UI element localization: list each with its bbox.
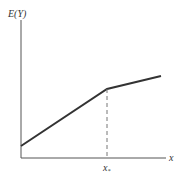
piecewise-linear-diagram: E(Y) x x*	[0, 0, 179, 179]
x-star-label: x*	[102, 162, 110, 174]
x-axis-label: x	[168, 152, 174, 163]
y-axis-label: E(Y)	[7, 8, 27, 20]
expectation-line	[21, 76, 161, 146]
